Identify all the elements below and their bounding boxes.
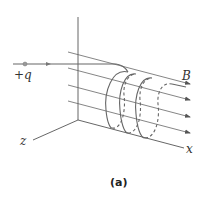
charge-dot xyxy=(23,62,27,66)
field-label: B xyxy=(181,69,191,83)
helix-diagram: +q B x z (a) xyxy=(0,0,206,201)
x-axis-line xyxy=(78,120,184,148)
figure-caption: (a) xyxy=(110,176,127,189)
x-axis-label: x xyxy=(186,142,193,156)
field-line-1 xyxy=(68,52,190,84)
field-line-3 xyxy=(68,85,190,117)
field-line-4 xyxy=(68,101,190,133)
helix-path xyxy=(106,72,186,138)
z-axis-label: z xyxy=(19,134,27,148)
z-axis-line xyxy=(33,120,78,140)
charge-label: +q xyxy=(14,68,32,82)
axes xyxy=(33,17,184,148)
